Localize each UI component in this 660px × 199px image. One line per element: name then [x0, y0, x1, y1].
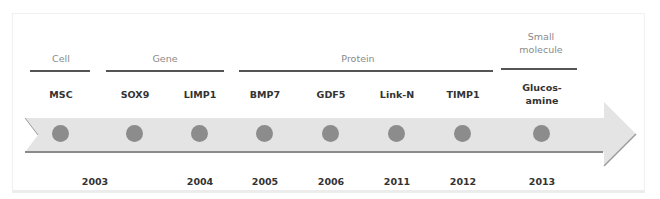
timeline-dot-msc: [52, 125, 69, 142]
year-2012: 2012: [438, 176, 488, 188]
timeline-dot-glucosamine: [533, 125, 550, 142]
timeline-dot-timp1: [454, 125, 471, 142]
year-2003: 2003: [70, 176, 120, 188]
timeline-dot-link-n: [388, 125, 405, 142]
year-2013: 2013: [517, 176, 567, 188]
year-2005: 2005: [240, 176, 290, 188]
timeline-dot-sox9: [126, 125, 143, 142]
timeline-arrow: [0, 0, 660, 199]
year-2006: 2006: [306, 176, 356, 188]
year-2011: 2011: [372, 176, 422, 188]
timeline-dot-limp1: [191, 125, 208, 142]
timeline-dot-gdf5: [322, 125, 339, 142]
timeline-dot-bmp7: [256, 125, 273, 142]
year-2004: 2004: [175, 176, 225, 188]
